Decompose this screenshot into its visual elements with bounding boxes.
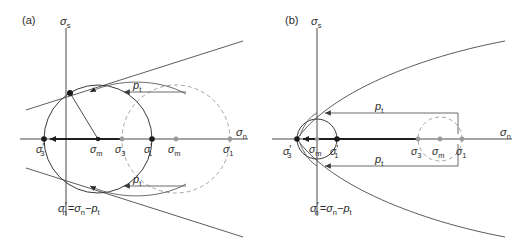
panel-b-point-sigma-m [438, 137, 443, 142]
panel-a-point-sigma-1 [228, 137, 233, 142]
panel-b-label: (b) [285, 14, 298, 26]
panel-b-point-sigma-1 [460, 137, 465, 142]
panel-a-point-sigma-m [174, 137, 179, 142]
panel-a-label: (a) [22, 14, 35, 26]
figure-svg: (a) σs σn p [0, 0, 526, 251]
mohr-circle-figure: (a) σs σn p [0, 0, 526, 251]
panel-a-point-sigma-3 [120, 137, 125, 142]
panel-b-point-sigma-m-prime [315, 137, 319, 141]
panel-b-point-sigma-3-prime [294, 136, 300, 142]
panel-b-point-sigma-3 [416, 137, 421, 142]
panel-a-tangent-point [67, 90, 73, 96]
panel-a-point-sigma-m-prime [96, 137, 100, 141]
panel-b-point-sigma-1-prime [334, 136, 340, 142]
